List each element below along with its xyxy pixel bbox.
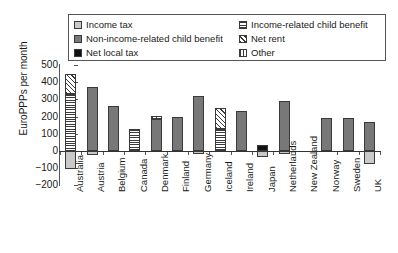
y-tick-label: 400 [41, 77, 58, 87]
legend-swatch-non-income-related-child-benefit-icon [74, 35, 82, 43]
bar-segment [65, 94, 76, 151]
x-tick-label: Germany [203, 153, 213, 192]
bar-segment [129, 129, 140, 151]
legend-label-income-related-child-benefit: Income-related child benefit [251, 20, 368, 30]
x-tick-label: Japan [267, 166, 277, 192]
x-tick-label: Denmark [160, 153, 170, 192]
x-tick-label: Ireland [245, 163, 255, 192]
bar-segment [343, 118, 354, 151]
legend-item-net-local-tax: Net local tax [74, 46, 223, 60]
y-tick-label: 200 [41, 112, 58, 122]
legend-column-right: Income-related child benefit Net rent Ot… [239, 18, 368, 60]
y-tick-label: 300 [41, 94, 58, 104]
x-tick-mark [380, 152, 381, 155]
x-tick-mark [273, 152, 274, 155]
x-tick-label: Norway [331, 160, 341, 192]
chart-legend: Income tax Non-income-related child bene… [68, 14, 386, 61]
x-tick-mark [337, 152, 338, 155]
bar-segment [151, 116, 162, 119]
legend-swatch-other-icon [239, 49, 247, 57]
legend-label-income-tax: Income tax [86, 20, 132, 30]
x-tick-mark [316, 152, 317, 155]
x-tick-mark [60, 152, 61, 155]
legend-item-income-tax: Income tax [74, 18, 223, 32]
x-tick-label: New Zealand [309, 136, 319, 192]
legend-item-net-rent: Net rent [239, 32, 368, 46]
x-tick-label: Sweden [352, 158, 362, 192]
x-tick-mark [359, 152, 360, 155]
legend-item-non-income-related-child-benefit: Non-income-related child benefit [74, 32, 223, 46]
bar-segment [172, 117, 183, 151]
bar-segment [193, 96, 204, 151]
legend-label-net-rent: Net rent [251, 34, 285, 44]
x-tick-label: Netherlands [288, 141, 298, 192]
x-tick-mark [209, 152, 210, 155]
bar-segment [364, 151, 375, 164]
x-tick-label: Australia [75, 155, 85, 192]
x-tick-label: Iceland [224, 161, 234, 192]
x-tick-mark [167, 152, 168, 155]
x-tick-mark [145, 152, 146, 155]
legend-column-left: Income tax Non-income-related child bene… [74, 18, 223, 60]
bar-segment [321, 118, 332, 151]
bar-chart: Income tax Non-income-related child bene… [0, 0, 398, 253]
legend-item-income-related-child-benefit: Income-related child benefit [239, 18, 368, 32]
bar-segment [87, 87, 98, 151]
bar-segment [65, 74, 76, 95]
bar-segment [236, 111, 247, 151]
x-tick-mark [252, 152, 253, 155]
bar-segment [364, 122, 375, 151]
x-tick-label: Belgium [117, 158, 127, 192]
x-tick-mark [188, 152, 189, 155]
legend-swatch-income-tax-icon [74, 21, 82, 29]
bar-segment [257, 151, 268, 157]
x-tick-mark [81, 152, 82, 155]
x-tick-label: Austria [96, 162, 106, 192]
legend-label-non-income-related-child-benefit: Non-income-related child benefit [86, 34, 223, 44]
legend-label-net-local-tax: Net local tax [86, 48, 138, 58]
y-tick-label: 100 [41, 129, 58, 139]
y-tick-label: −100 [35, 163, 58, 173]
bar-segment [215, 129, 226, 151]
x-tick-mark [231, 152, 232, 155]
x-tick-mark [124, 152, 125, 155]
y-axis-ticks: 5004003002001000−100−200 [18, 60, 58, 190]
bar-segment [87, 151, 98, 155]
legend-swatch-income-related-child-benefit-icon [239, 21, 247, 29]
y-tick-label: −200 [35, 180, 58, 190]
y-tick-label: 500 [41, 60, 58, 70]
x-tick-label: UK [373, 179, 383, 192]
x-tick-label: Finland [181, 161, 191, 192]
legend-swatch-net-rent-icon [239, 35, 247, 43]
x-tick-label: Canada [139, 159, 149, 192]
legend-label-other: Other [251, 48, 275, 58]
y-tick-label: 0 [52, 146, 58, 156]
x-tick-mark [295, 152, 296, 155]
x-tick-mark [103, 152, 104, 155]
bar-segment [215, 108, 226, 129]
bar-segment [108, 106, 119, 151]
bar-segment [151, 119, 162, 151]
legend-swatch-net-local-tax-icon [74, 49, 82, 57]
legend-item-other: Other [239, 46, 368, 60]
